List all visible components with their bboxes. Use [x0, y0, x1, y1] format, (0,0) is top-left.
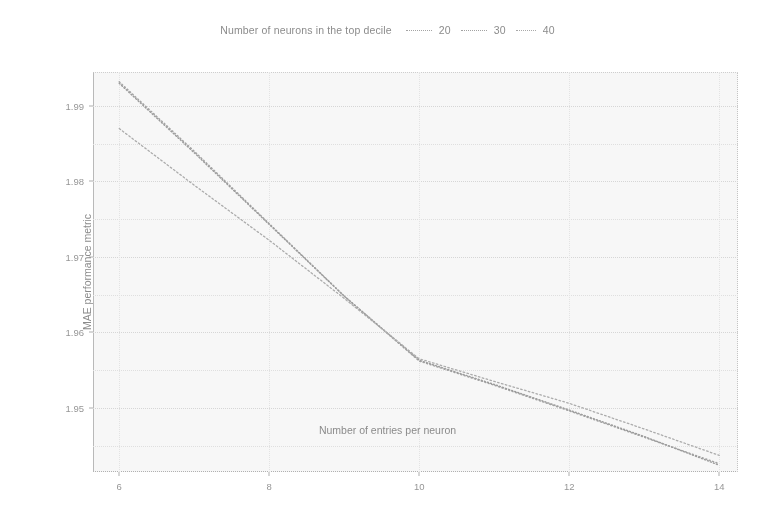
legend-entry-30[interactable]: 30	[461, 24, 506, 36]
x-tick-mark	[569, 472, 570, 476]
legend-line-swatch-icon	[461, 30, 487, 31]
series-line-30	[119, 83, 719, 465]
plot-area: 1.991.981.971.961.9568101214 MAE perform…	[93, 72, 738, 472]
legend-label-40: 40	[543, 24, 555, 36]
y-tick-label: 1.99	[66, 100, 94, 111]
x-tick-mark	[419, 472, 420, 476]
x-tick-mark	[269, 472, 270, 476]
y-tick-label: 1.98	[66, 176, 94, 187]
legend-entry-40[interactable]: 40	[516, 24, 555, 36]
x-tick-mark	[119, 472, 120, 476]
legend-line-swatch-icon	[406, 30, 432, 31]
x-tick-mark	[719, 472, 720, 476]
legend-label-20: 20	[439, 24, 451, 36]
legend-label-30: 30	[494, 24, 506, 36]
series-line-20	[119, 82, 719, 464]
chart-page: Number of neurons in the top decile 20 3…	[0, 0, 775, 531]
series-lines	[93, 72, 738, 472]
legend-entry-20[interactable]: 20	[406, 24, 451, 36]
x-tick-label: 12	[564, 481, 575, 492]
x-tick-label: 10	[414, 481, 425, 492]
y-tick-label: 1.95	[66, 402, 94, 413]
x-tick-label: 14	[714, 481, 725, 492]
legend-title: Number of neurons in the top decile	[220, 24, 392, 36]
series-line-40	[119, 129, 719, 456]
x-tick-label: 6	[117, 481, 122, 492]
y-axis-title: MAE performance metric	[81, 214, 93, 330]
chart-legend: Number of neurons in the top decile 20 3…	[0, 24, 775, 36]
legend-line-swatch-icon	[516, 30, 536, 31]
x-tick-label: 8	[267, 481, 272, 492]
x-axis-title: Number of entries per neuron	[0, 424, 775, 436]
